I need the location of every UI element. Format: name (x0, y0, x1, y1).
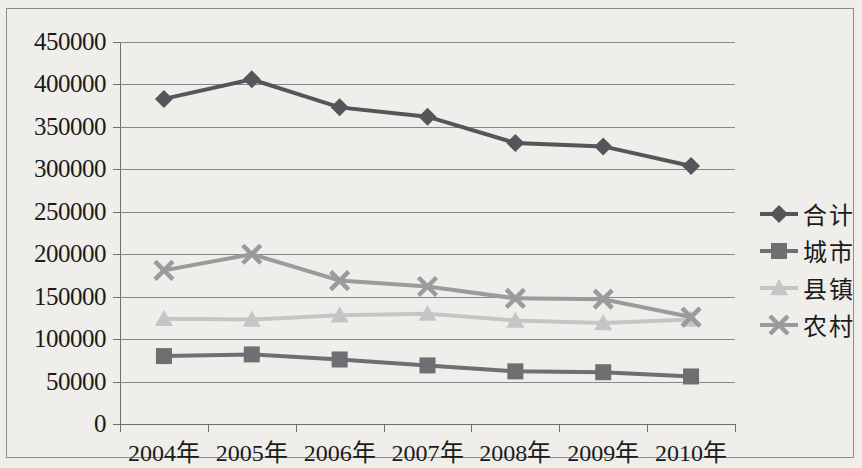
x-axis-label: 2006年 (304, 433, 376, 468)
legend-label: 合计 (803, 196, 855, 231)
y-axis-tick (113, 84, 120, 85)
legend-item-3[interactable]: 县镇 (759, 269, 859, 306)
data-point-marker (243, 70, 261, 88)
x-axis-tick (208, 424, 209, 432)
y-axis-label: 0 (94, 410, 106, 438)
y-axis-tick (113, 169, 120, 170)
chart-frame: 4500004000003500003000002500002000001500… (6, 8, 854, 458)
y-axis-tick (113, 339, 120, 340)
data-point-marker (595, 364, 611, 380)
legend-marker-icon (759, 314, 799, 336)
x-axis-tick (120, 424, 121, 432)
data-point-marker (420, 357, 436, 373)
y-axis-label: 200000 (34, 240, 106, 268)
x-axis-label: 2008年 (479, 433, 551, 468)
series-2 (156, 346, 699, 384)
data-point-marker (419, 108, 437, 126)
y-axis-label: 50000 (46, 368, 106, 396)
y-axis-label: 150000 (34, 283, 106, 311)
legend-label: 城市 (803, 233, 855, 268)
chart-legend: 合计城市县镇农村 (759, 195, 859, 343)
data-point-marker (507, 363, 523, 379)
x-axis-tick (735, 424, 736, 432)
series-plot (120, 42, 735, 424)
y-axis-tick (113, 254, 120, 255)
x-axis-tick (384, 424, 385, 432)
x-axis-label: 2009年 (567, 433, 639, 468)
y-axis-tick (113, 297, 120, 298)
y-axis-label: 300000 (34, 155, 106, 183)
legend-label: 农村 (803, 307, 855, 342)
series-3 (155, 305, 700, 331)
x-axis-label: 2007年 (392, 433, 464, 468)
y-axis-tick (113, 127, 120, 128)
legend-marker-icon (759, 240, 799, 262)
y-axis-label: 250000 (34, 198, 106, 226)
y-axis-tick (113, 42, 120, 43)
x-axis-tick (471, 424, 472, 432)
y-axis-label: 350000 (34, 113, 106, 141)
data-point-marker (331, 98, 349, 116)
x-axis-tick (296, 424, 297, 432)
data-point-marker (682, 157, 700, 175)
legend-item-4[interactable]: 农村 (759, 306, 859, 343)
data-point-marker (594, 137, 612, 155)
x-axis-label: 2010年 (655, 433, 727, 468)
y-axis-label: 100000 (34, 325, 106, 353)
legend-marker-icon (759, 277, 799, 299)
x-axis-label: 2004年 (128, 433, 200, 468)
legend-marker-icon (759, 203, 799, 225)
y-axis-tick (113, 424, 120, 425)
y-axis-label: 450000 (34, 28, 106, 56)
y-axis-tick (113, 212, 120, 213)
data-point-marker (683, 368, 699, 384)
y-axis-tick (113, 382, 120, 383)
data-point-marker (332, 351, 348, 367)
x-axis-line (120, 424, 735, 425)
data-point-marker (156, 348, 172, 364)
legend-label: 县镇 (803, 270, 855, 305)
series-1 (155, 70, 700, 175)
y-axis-label: 400000 (34, 70, 106, 98)
x-axis-label: 2005年 (216, 433, 288, 468)
legend-item-1[interactable]: 合计 (759, 195, 859, 232)
data-point-marker (244, 346, 260, 362)
x-axis-tick (647, 424, 648, 432)
data-point-marker (506, 134, 524, 152)
data-point-marker (155, 90, 173, 108)
x-axis-tick (559, 424, 560, 432)
legend-item-2[interactable]: 城市 (759, 232, 859, 269)
